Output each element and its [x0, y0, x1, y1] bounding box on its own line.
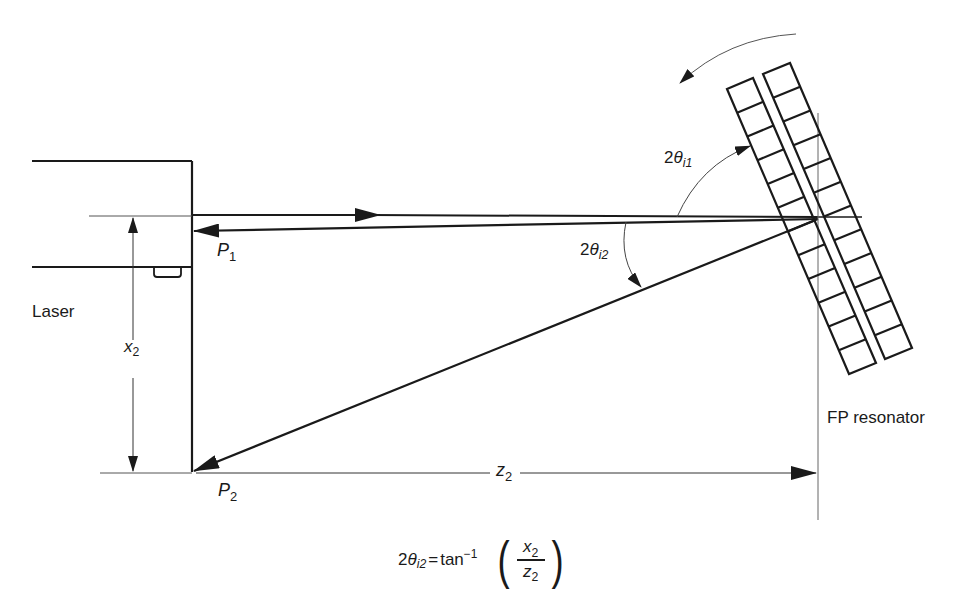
fp-cell-divider — [747, 126, 773, 137]
fp-cell-divider — [794, 134, 821, 145]
formula-close-paren: ) — [551, 534, 563, 586]
fp-cell-divider — [834, 229, 861, 240]
z2-label: z2 — [496, 460, 512, 481]
formula-theta: θ — [407, 550, 416, 570]
fp-cell-divider — [844, 253, 871, 264]
p2-base: P — [218, 480, 230, 500]
fp-cell-divider — [768, 173, 794, 184]
den-base: z — [523, 562, 532, 581]
z2-sub: 2 — [505, 469, 512, 484]
angle-arc-i2 — [624, 222, 641, 287]
formula-func: tan — [440, 550, 464, 570]
fp-cell-divider — [819, 292, 846, 303]
formula-sub: i2 — [417, 557, 427, 571]
p2-sub: 2 — [230, 489, 237, 504]
fp-resonator — [727, 63, 912, 374]
angle-i1-symbol: θ — [673, 148, 682, 167]
p1-label: P1 — [217, 240, 236, 261]
x2-label: x2 — [124, 337, 139, 357]
den-sub: 2 — [532, 570, 539, 584]
fp-cell-divider — [737, 102, 763, 113]
fp-cell-divider — [798, 244, 825, 255]
formula-prefix: 2 — [398, 550, 407, 570]
fp-resonator-label: FP resonator — [827, 408, 925, 428]
fp-cell-divider — [875, 324, 902, 335]
laser-label: Laser — [32, 302, 75, 322]
p2-label: P2 — [218, 480, 237, 501]
return-beam-p2 — [194, 219, 818, 471]
angle-i2-sub: i2 — [599, 248, 609, 262]
x2-sub: 2 — [133, 345, 140, 359]
return-beam-p1 — [194, 219, 818, 231]
fp-cell-divider — [824, 206, 851, 217]
formula-fraction: x2 z2 — [517, 536, 545, 584]
fp-cell-divider — [855, 277, 882, 288]
outgoing-beam — [192, 215, 818, 217]
fp-cell-divider — [829, 316, 856, 327]
rotation-arrow-icon — [680, 34, 796, 83]
fp-cell-divider — [788, 221, 815, 232]
formula-numerator: x2 — [523, 536, 538, 559]
formula: 2θi2 = tan−1 ( x2 z2 ) — [398, 534, 566, 586]
angle-i2-label: 2θi2 — [580, 240, 608, 260]
x2-base: x — [124, 337, 133, 356]
formula-equals: = — [428, 550, 438, 570]
fp-cell-divider — [865, 301, 892, 312]
fp-cell-divider — [758, 149, 784, 160]
angle-i2-symbol: θ — [589, 240, 598, 259]
optical-diagram — [0, 0, 980, 616]
fp-cell-divider — [804, 158, 831, 169]
angle-i1-sub: i1 — [683, 156, 693, 170]
fp-cell-divider — [773, 87, 800, 98]
formula-func-sup: −1 — [464, 547, 478, 561]
p1-base: P — [217, 240, 229, 260]
formula-denominator: z2 — [523, 561, 538, 584]
laser-aperture-icon — [154, 267, 181, 277]
fp-cell-divider — [778, 197, 804, 208]
p1-sub: 1 — [229, 249, 236, 264]
angle-i1-label: 2θi1 — [664, 148, 692, 168]
num-sub: 2 — [532, 546, 539, 560]
fp-cell-divider — [839, 339, 866, 350]
formula-open-paren: ( — [498, 534, 510, 586]
fp-cell-divider — [783, 111, 810, 122]
num-base: x — [523, 537, 532, 556]
z2-base: z — [496, 460, 505, 480]
fp-cell-divider — [808, 268, 835, 279]
